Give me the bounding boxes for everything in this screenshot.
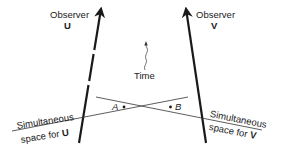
event-a-label: A: [112, 102, 118, 112]
simultaneous-u-name: U: [61, 126, 70, 138]
observer-u-title: Observer: [50, 10, 89, 20]
observer-v-worldline: [187, 12, 207, 143]
event-b-dot: [169, 106, 172, 109]
observer-u-worldline: [79, 12, 101, 143]
event-a-dot: [123, 106, 126, 109]
time-arrow-icon: [145, 44, 148, 70]
observer-v-name: V: [211, 21, 217, 31]
observer-u-name: U: [64, 21, 71, 31]
time-label: Time: [134, 71, 155, 81]
observer-v-title: Observer: [196, 10, 235, 20]
event-b-label: B: [175, 102, 181, 112]
